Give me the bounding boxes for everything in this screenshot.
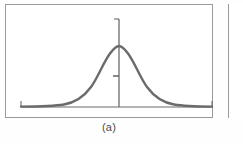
figure-panel-a: (a) <box>0 0 243 144</box>
plot-panel-border <box>5 4 213 118</box>
normal-distribution-chart <box>6 5 214 119</box>
panel-caption-label: (a) <box>0 120 218 134</box>
adjacent-panel-border <box>228 4 243 118</box>
